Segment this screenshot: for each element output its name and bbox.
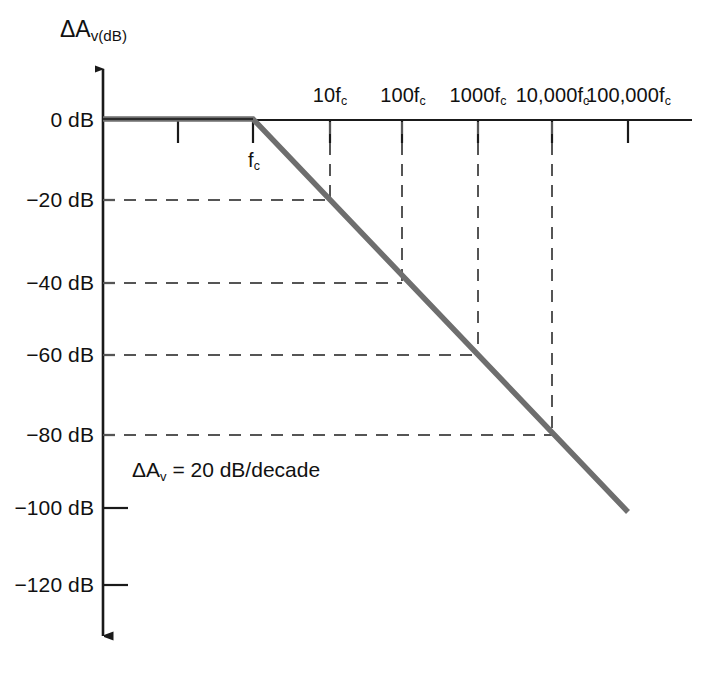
- x-tick-label-100000fc-base: 100,000f: [586, 84, 665, 106]
- y-tick-label-0: 0 dB: [0, 109, 94, 130]
- y-tick-label-minus100: −100 dB: [0, 497, 94, 518]
- x-tick-label-10fc-base: 10f: [313, 84, 341, 106]
- x-tick-label-100000fc-sub: c: [665, 94, 671, 108]
- bode-plot-figure: ΔAv(dB) 0 dB −20 dB −40 dB −60 dB −80 dB…: [0, 0, 711, 674]
- y-axis-title-delta: ΔA: [60, 16, 91, 42]
- y-tick-marks: [103, 200, 128, 585]
- y-axis-title: ΔAv(dB): [60, 18, 127, 41]
- y-tick-label-minus80: −80 dB: [0, 424, 94, 445]
- y-tick-label-minus40: −40 dB: [0, 272, 94, 293]
- slope-annotation: ΔAv = 20 dB/decade: [132, 459, 320, 480]
- slope-annotation-rest: = 20 dB/decade: [167, 458, 321, 481]
- y-tick-label-minus20: −20 dB: [0, 189, 94, 210]
- y-tick-label-minus120: −120 dB: [0, 574, 94, 595]
- x-tick-label-fc: fc: [233, 150, 275, 170]
- vertical-guide-lines: [330, 122, 552, 435]
- y-axis-title-subscript: v(dB): [91, 27, 127, 44]
- response-curve: [103, 119, 628, 512]
- slope-annotation-sub: v: [160, 469, 167, 484]
- x-tick-label-fc-sub: c: [254, 159, 260, 173]
- x-tick-label-10fc-sub: c: [341, 94, 347, 108]
- horizontal-guide-lines: [103, 200, 552, 435]
- x-tick-label-fc-base: f: [248, 149, 254, 171]
- x-tick-label-100000fc: 100,000fc: [551, 85, 706, 105]
- slope-annotation-delta: ΔA: [132, 458, 160, 481]
- y-tick-label-minus60: −60 dB: [0, 344, 94, 365]
